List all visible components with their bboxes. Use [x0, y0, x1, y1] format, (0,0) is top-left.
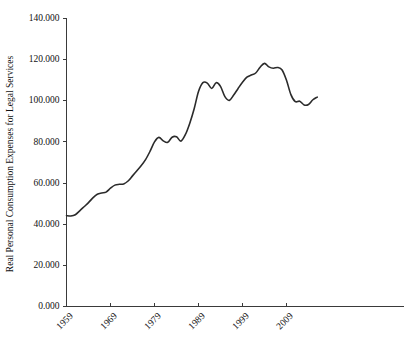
y-axis-tick-label: 40.000	[33, 219, 59, 229]
axis-tick-marks	[63, 19, 287, 307]
axis-lines	[67, 19, 404, 307]
x-axis-tick-label: 1999	[230, 311, 251, 332]
x-axis-tick-label: 1969	[98, 311, 119, 332]
x-axis-tick-label: 1959	[54, 311, 75, 332]
y-axis-tick-label: 20.000	[33, 260, 59, 270]
y-axis-tick-label: 100.000	[29, 95, 60, 105]
x-axis-tick-labels: 195919691979198919992009	[54, 311, 295, 332]
line-chart-plot: Real Personal Consumption Expenses for L…	[0, 0, 415, 344]
x-axis-tick-label: 1979	[142, 311, 163, 332]
y-axis-tick-label: 60.000	[33, 178, 59, 188]
x-axis-tick-label: 1989	[186, 311, 207, 332]
y-axis-tick-label: 140.000	[29, 13, 60, 23]
y-axis-label-text: Real Personal Consumption Expenses for L…	[5, 56, 15, 273]
y-axis-tick-label: 120.000	[29, 54, 60, 64]
chart-container: Real Personal Consumption Expenses for L…	[0, 0, 415, 344]
x-axis-tick-label: 2009	[274, 311, 295, 332]
data-series-line	[67, 63, 318, 216]
y-axis-tick-label: 80.000	[33, 137, 59, 147]
y-axis-label: Real Personal Consumption Expenses for L…	[5, 56, 15, 273]
y-axis-tick-labels: 0.00020.00040.00060.00080.000100.000120.…	[29, 13, 60, 311]
y-axis-tick-label: 0.000	[38, 301, 60, 311]
